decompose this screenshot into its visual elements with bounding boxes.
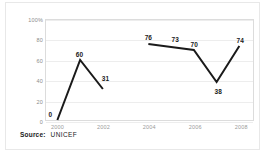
data-point-label: 76	[145, 34, 152, 41]
y-axis-tick-label: 20	[36, 99, 43, 105]
data-point-label: 60	[76, 51, 83, 58]
x-axis-tick-label: 2006	[189, 124, 202, 130]
data-point-label: 73	[172, 36, 179, 43]
data-point-label: 0	[49, 111, 53, 118]
line-chart: 020406080100% 20002002200420062008 06031…	[18, 9, 254, 122]
data-point-label: 31	[102, 75, 109, 82]
line-segment	[57, 60, 103, 120]
plot-area: 020406080100% 20002002200420062008 06031…	[45, 19, 254, 121]
line-segment	[148, 44, 239, 82]
x-axis-tick-label: 2008	[235, 124, 248, 130]
x-axis-tick-label: 2004	[143, 124, 156, 130]
gridline	[46, 122, 253, 123]
chart-card: 020406080100% 20002002200420062008 06031…	[5, 2, 260, 150]
source-label: Source:	[20, 131, 46, 138]
chart-page: 020406080100% 20002002200420062008 06031…	[0, 0, 266, 154]
x-axis-tick-label: 2000	[51, 124, 64, 130]
x-axis-tick-label: 2002	[97, 124, 110, 130]
data-point-label: 38	[215, 88, 222, 95]
y-axis-tick-label: 100%	[28, 17, 43, 23]
data-point-label: 70	[191, 41, 198, 48]
y-axis-tick-label: 60	[36, 58, 43, 64]
y-axis-tick-label: 40	[36, 78, 43, 84]
source-value: UNICEF	[51, 131, 78, 138]
data-point-label: 74	[237, 37, 244, 44]
source-note: Source:UNICEF	[20, 131, 77, 138]
y-axis-tick-label: 80	[36, 37, 43, 43]
y-axis-tick-label: 0	[40, 119, 43, 125]
